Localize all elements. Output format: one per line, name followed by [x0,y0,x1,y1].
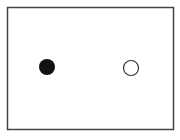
frame-border [8,8,174,130]
diagram-canvas [0,0,180,140]
open-circle [124,61,139,76]
filled-circle [39,59,55,75]
